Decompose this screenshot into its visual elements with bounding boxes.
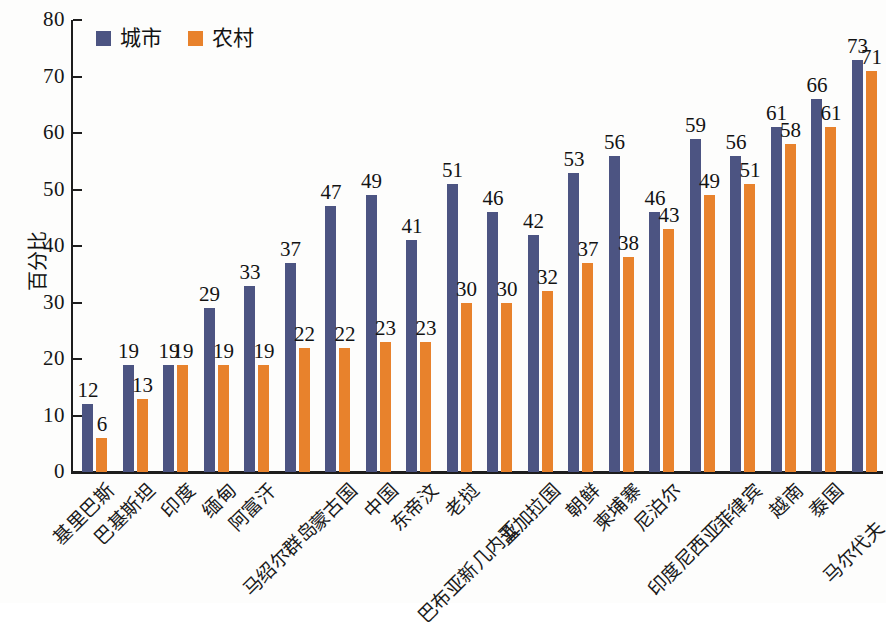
bar-value-label-urban: 42	[514, 211, 554, 232]
bar-value-label-rural: 32	[528, 267, 568, 288]
x-axis-label: 马尔代夫	[819, 518, 886, 587]
bar-rural	[744, 184, 755, 472]
bar-rural	[96, 438, 107, 472]
bar-value-label-rural: 19	[244, 341, 284, 362]
bar-value-label-rural: 49	[690, 171, 730, 192]
bar-value-label-rural: 61	[811, 103, 851, 124]
bar-value-label-urban: 56	[716, 132, 756, 153]
bar-rural	[380, 342, 391, 472]
bar-value-label-rural: 43	[649, 205, 689, 226]
plot-area: 1261913191929193319372247224923412351304…	[73, 20, 883, 472]
bar-urban	[204, 308, 215, 472]
x-axis-label: 越南	[765, 480, 807, 522]
x-axis-label: 蒙古国	[306, 480, 361, 535]
bar-rural	[704, 195, 715, 472]
x-axis-label: 印度尼西亚	[643, 518, 725, 600]
bar-value-label-rural: 38	[609, 233, 649, 254]
bar-urban	[852, 60, 863, 472]
bar-group: 1913	[123, 20, 164, 472]
bar-urban	[163, 365, 174, 472]
bar-value-label-rural: 22	[285, 324, 325, 345]
bar-value-label-urban: 51	[433, 160, 473, 181]
bar-rural	[218, 365, 229, 472]
bar-rural	[461, 303, 472, 473]
y-axis-tick-label: 80	[5, 9, 65, 30]
bar-group: 4630	[487, 20, 528, 472]
bar-value-label-urban: 29	[190, 284, 230, 305]
y-axis-tick-label: 10	[5, 405, 65, 426]
bar-value-label-rural: 6	[82, 414, 122, 435]
bar-value-label-urban: 53	[554, 149, 594, 170]
y-axis-tick-label: 0	[5, 461, 65, 482]
bar-value-label-rural: 13	[123, 375, 163, 396]
bar-value-label-rural: 23	[406, 318, 446, 339]
bar-value-label-urban: 19	[109, 341, 149, 362]
bar-rural	[582, 263, 593, 472]
bar-value-label-rural: 58	[771, 120, 811, 141]
bar-urban	[447, 184, 458, 472]
bar-value-label-urban: 12	[68, 380, 108, 401]
bar-rural	[258, 365, 269, 472]
bar-urban	[771, 127, 782, 472]
bar-group: 5949	[690, 20, 731, 472]
bar-group: 5651	[730, 20, 771, 472]
y-axis-tick-label: 70	[5, 66, 65, 87]
y-axis-tick-label: 60	[5, 122, 65, 143]
bar-value-label-rural: 22	[325, 324, 365, 345]
bar-value-label-urban: 46	[473, 188, 513, 209]
bar-rural	[501, 303, 512, 473]
bar-group: 2919	[204, 20, 245, 472]
bar-group: 5337	[568, 20, 609, 472]
bar-urban	[406, 240, 417, 472]
bar-rural	[177, 365, 188, 472]
bar-value-label-rural: 19	[163, 341, 203, 362]
bar-urban	[609, 156, 620, 472]
bar-rural	[663, 229, 674, 472]
bar-urban	[244, 286, 255, 472]
bar-urban	[568, 173, 579, 472]
bar-value-label-rural: 30	[447, 279, 487, 300]
x-axis-label: 马绍尔群岛	[238, 518, 320, 600]
bar-group: 126	[82, 20, 123, 472]
bar-rural	[299, 348, 310, 472]
bar-value-label-urban: 33	[230, 262, 270, 283]
bar-value-label-urban: 41	[392, 216, 432, 237]
bar-group: 3722	[285, 20, 326, 472]
bar-group: 7371	[852, 20, 886, 472]
bar-rural	[866, 71, 877, 472]
bar-group: 4232	[528, 20, 569, 472]
bar-value-label-urban: 49	[352, 171, 392, 192]
bar-value-label-urban: 56	[595, 132, 635, 153]
bar-group: 4923	[366, 20, 407, 472]
bar-value-label-urban: 59	[676, 115, 716, 136]
x-axis-label: 印度	[157, 480, 199, 522]
bar-urban	[649, 212, 660, 472]
x-axis-label: 泰国	[805, 480, 847, 522]
bar-rural	[785, 144, 796, 472]
y-axis-tick-label: 30	[5, 292, 65, 313]
bar-rural	[420, 342, 431, 472]
bar-value-label-rural: 37	[568, 239, 608, 260]
bar-group: 1919	[163, 20, 204, 472]
bar-group: 5130	[447, 20, 488, 472]
bar-urban	[285, 263, 296, 472]
x-axis-label: 菲律宾	[711, 480, 766, 535]
bar-urban	[730, 156, 741, 472]
bar-rural	[339, 348, 350, 472]
bar-group: 5638	[609, 20, 650, 472]
y-axis-tick-label: 40	[5, 235, 65, 256]
x-axis-label: 孟加拉国	[495, 480, 564, 549]
bar-value-label-rural: 23	[366, 318, 406, 339]
bar-value-label-rural: 30	[487, 279, 527, 300]
bar-rural	[825, 127, 836, 472]
y-axis-tick-label: 50	[5, 179, 65, 200]
bar-group: 6661	[811, 20, 852, 472]
bar-urban	[487, 212, 498, 472]
bar-group: 4123	[406, 20, 447, 472]
bar-rural	[542, 291, 553, 472]
bar-value-label-rural: 51	[730, 160, 770, 181]
bar-value-label-rural: 71	[852, 47, 886, 68]
bar-rural	[623, 257, 634, 472]
bar-group: 4643	[649, 20, 690, 472]
bar-value-label-urban: 66	[797, 75, 837, 96]
